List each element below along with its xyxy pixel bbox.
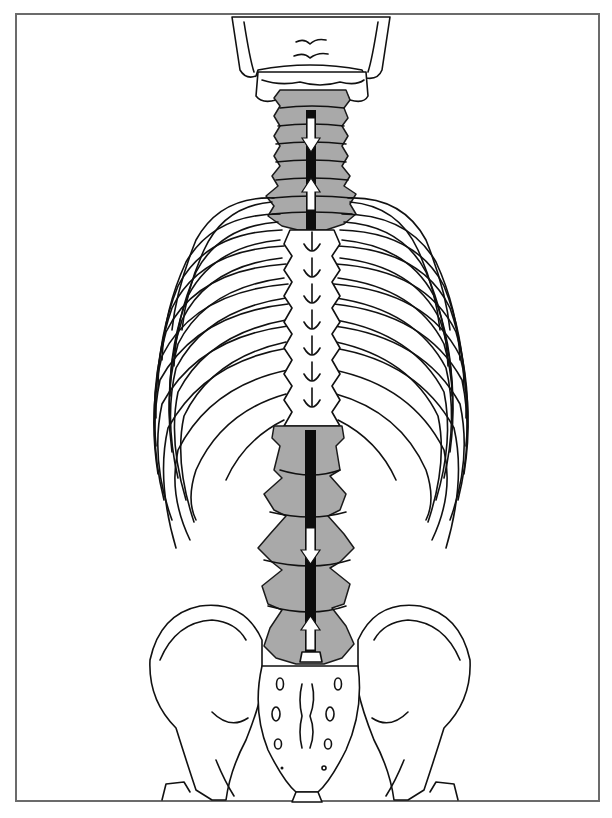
spine-illustration bbox=[0, 0, 612, 818]
thoracic-spine bbox=[284, 230, 340, 426]
rib-cage-right bbox=[334, 198, 468, 548]
skull-base bbox=[232, 17, 390, 101]
